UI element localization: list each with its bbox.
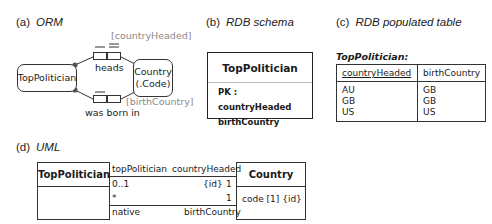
orm-entity-top-politician-label: TopPolitician <box>18 72 77 84</box>
table-cell: GB <box>337 96 418 107</box>
orm-role-name-country-headed: [countryHeaded] <box>111 30 191 41</box>
uml-association-born-line <box>110 205 236 206</box>
rdb-schema-row-pk: PK : countryHeaded <box>208 85 312 115</box>
orm-entity-country-name: Country <box>134 66 172 78</box>
rdb-schema-table-name: TopPolitician <box>208 53 312 83</box>
rdb-populated-table: countryHeaded birthCountry AU GB GB GB U… <box>336 64 486 122</box>
uml-class-country: Country code [1] {id} <box>236 162 306 220</box>
column-header-country-headed: countryHeaded <box>337 65 418 82</box>
table-cell: AU <box>337 82 418 97</box>
table-header-row: countryHeaded birthCountry <box>337 65 486 82</box>
uml-association-heads-line <box>110 176 236 177</box>
rdb-populated-table-name: TopPolitician: <box>336 51 408 62</box>
orm-role-box-born-1 <box>93 95 107 103</box>
rdb-schema-row-birth-country: birthCountry <box>208 115 312 130</box>
uml-caption-label: (d) <box>16 141 30 153</box>
orm-role-box-heads-2 <box>107 52 121 60</box>
uml-class-country-name: Country <box>237 163 305 187</box>
rdb-populated-caption-label: (c) <box>336 16 349 28</box>
uml-caption: (d)UML <box>16 141 60 153</box>
uml-caption-title: UML <box>36 141 60 153</box>
uml-class-top-politician-name: TopPolitician <box>38 163 109 187</box>
orm-role-box-born-2 <box>107 95 121 103</box>
orm-fact-reading-was-born-in: was born in <box>85 107 140 118</box>
table-row: GB GB <box>337 96 486 107</box>
table-cell: US <box>418 107 486 122</box>
rdb-schema-table: TopPolitician PK : countryHeaded birthCo… <box>207 52 313 119</box>
uml-role-top-politician: topPolitician <box>112 164 167 174</box>
uml-role-native: native <box>112 207 140 217</box>
uml-role-country-headed: countryHeaded <box>172 164 241 174</box>
uml-role-birth-country: birthCountry <box>184 207 241 217</box>
orm-fact-reading-heads: heads <box>95 62 124 73</box>
uml-class-top-politician: TopPolitician <box>37 162 110 220</box>
uml-mult-birth-country: 1 <box>226 193 232 203</box>
rdb-schema-caption-label: (b) <box>206 16 220 28</box>
table-cell: GB <box>418 96 486 107</box>
column-header-birth-country: birthCountry <box>418 65 486 82</box>
table-cell: US <box>337 107 418 122</box>
uml-class-country-attribute: code [1] {id} <box>237 187 305 204</box>
uml-mult-native: * <box>112 193 117 203</box>
orm-role-name-birth-country: [birthCountry] <box>126 96 193 107</box>
uml-mult-country-headed: 1 <box>226 179 232 189</box>
orm-role-box-heads-1 <box>93 52 107 60</box>
orm-entity-country: Country (.Code) <box>133 59 173 97</box>
rdb-populated-caption: (c)RDB populated table <box>336 16 462 28</box>
table-cell: GB <box>418 82 486 97</box>
rdb-schema-caption: (b)RDB schema <box>206 16 294 28</box>
rdb-schema-caption-title: RDB schema <box>226 16 294 28</box>
uml-mult-top-politician: 0..1 <box>112 179 129 189</box>
orm-entity-top-politician: TopPolitician <box>17 64 77 92</box>
uml-constraint-id: {id} <box>203 179 223 189</box>
orm-entity-country-refmode: (.Code) <box>136 78 171 90</box>
table-row: AU GB <box>337 82 486 97</box>
rdb-populated-caption-title: RDB populated table <box>355 16 461 28</box>
table-row: US US <box>337 107 486 122</box>
